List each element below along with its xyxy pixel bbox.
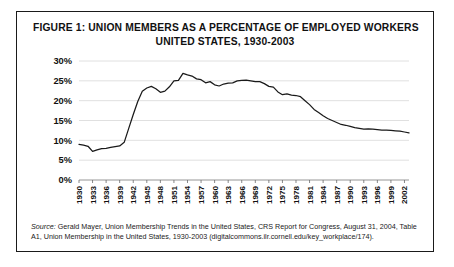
source-text: Source: Gerald Mayer, Union Membership T… bbox=[31, 222, 419, 243]
x-axis-tick-label: 1996 bbox=[373, 186, 382, 205]
x-axis-tick-label: 1963 bbox=[224, 186, 233, 205]
y-axis-tick-label: 15% bbox=[53, 116, 72, 126]
x-axis-tick-label: 1942 bbox=[129, 186, 138, 205]
source-body: Gerald Mayer, Union Membership Trends in… bbox=[31, 222, 417, 242]
x-axis-tick-label: 1948 bbox=[156, 186, 165, 205]
x-axis-tick-label: 1972 bbox=[265, 186, 274, 205]
gridlines bbox=[79, 61, 409, 183]
x-axis-tick-label: 1945 bbox=[143, 186, 152, 205]
y-axis-tick-label: 20% bbox=[53, 96, 72, 106]
x-axis-tick-label: 1936 bbox=[102, 186, 111, 205]
x-axis-tick-label: 1999 bbox=[387, 186, 396, 205]
x-axis-tick-label: 1930 bbox=[75, 186, 84, 205]
x-axis-tick-label: 1978 bbox=[292, 186, 301, 205]
union-membership-series bbox=[79, 73, 409, 151]
x-axis-tick-label: 1939 bbox=[116, 186, 125, 205]
x-axis-tick-label: 1975 bbox=[278, 186, 287, 205]
y-axis-tick-label: 0% bbox=[59, 175, 73, 185]
x-axis-tick-label: 1960 bbox=[211, 186, 220, 205]
x-axis-tick-label: 1987 bbox=[333, 186, 342, 205]
x-axis-tick-label: 1954 bbox=[183, 186, 192, 205]
x-axis-tick-label: 1969 bbox=[251, 186, 260, 205]
x-axis-tick-label: 1957 bbox=[197, 186, 206, 205]
x-axis-tick-label: 1984 bbox=[319, 186, 328, 205]
figure-container: FIGURE 1: UNION MEMBERS AS A PERCENTAGE … bbox=[16, 11, 434, 252]
line-chart: 0%5%10%15%20%25%30% 19301933193619391942… bbox=[17, 12, 435, 253]
x-axis-tick-labels: 1930193319361939194219451948195119541957… bbox=[75, 186, 409, 205]
x-axis-tick-label: 1981 bbox=[306, 186, 315, 205]
y-axis-tick-label: 25% bbox=[53, 76, 72, 86]
x-axis-tick-label: 1966 bbox=[238, 186, 247, 205]
x-axis-tick-label: 1933 bbox=[89, 186, 98, 205]
source-label: Source: bbox=[31, 222, 56, 231]
x-axis-tick-label: 1951 bbox=[170, 186, 179, 205]
chart-plot-area: 0%5%10%15%20%25%30% 19301933193619391942… bbox=[17, 12, 435, 253]
y-axis-tick-labels: 0%5%10%15%20%25%30% bbox=[53, 56, 72, 185]
y-axis-tick-label: 10% bbox=[53, 136, 72, 146]
x-axis-tick-label: 1993 bbox=[360, 186, 369, 205]
source-note: Source: Gerald Mayer, Union Membership T… bbox=[17, 222, 433, 251]
y-axis-tick-label: 30% bbox=[53, 56, 72, 66]
y-axis-tick-label: 5% bbox=[59, 155, 73, 165]
x-axis-tick-label: 2002 bbox=[400, 186, 409, 205]
x-axis-tick-label: 1990 bbox=[346, 186, 355, 205]
